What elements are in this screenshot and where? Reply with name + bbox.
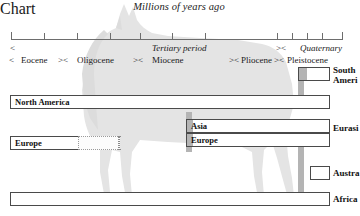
timeline-axis xyxy=(0,30,358,44)
epoch-label-pliocene: Pliocene xyxy=(241,55,272,66)
axis-tick xyxy=(342,32,343,40)
axis-tick xyxy=(205,33,206,40)
range-bar-australia[interactable] xyxy=(310,166,330,180)
axis-tick xyxy=(140,33,141,40)
epoch-label-miocene: Miocene xyxy=(152,55,184,66)
axis-tick xyxy=(172,33,173,40)
range-bar-label: North America xyxy=(15,96,70,110)
range-bar-europe-late[interactable]: Europe xyxy=(186,133,330,147)
range-bar-europe-early[interactable]: Europe xyxy=(10,136,120,150)
continent-label-line: Austra xyxy=(333,168,360,178)
epoch-bracket: >< xyxy=(133,55,143,66)
axis-tick xyxy=(11,32,12,40)
continent-label-africa: Africa xyxy=(333,194,358,204)
epoch-label-oligocene: Oligocene xyxy=(77,55,114,66)
range-bar-label: Europe xyxy=(15,137,42,151)
epoch-label-pleistocene: Pleistocene xyxy=(287,55,328,66)
range-bar-label: Europe xyxy=(191,134,218,148)
range-chart: North America Asia Europe Europe South A… xyxy=(0,62,358,216)
range-bar-africa[interactable] xyxy=(10,192,330,206)
continent-label-australia: Austra xyxy=(333,168,360,178)
axis-tick xyxy=(277,33,278,40)
period-labels: < Tertiary period >< Quaternary < Eocene… xyxy=(0,43,358,67)
axis-tick xyxy=(322,33,323,40)
epoch-label-eocene: Eocene xyxy=(21,55,47,66)
period-row-epochs: < Eocene >< Oligocene >< Miocene >< Plio… xyxy=(0,55,358,66)
range-bar-south-america[interactable] xyxy=(298,67,330,81)
range-bar-north-america[interactable]: North America xyxy=(10,95,330,109)
continent-label-south-america: South Ameri xyxy=(333,65,358,85)
period-row-major: < Tertiary period >< Quaternary xyxy=(0,43,358,54)
continent-label-line: Ameri xyxy=(333,75,358,85)
axis-tick xyxy=(44,33,45,40)
epoch-bracket: >< xyxy=(58,55,68,66)
period-bracket: >< xyxy=(276,43,286,54)
epoch-bracket: >< xyxy=(229,55,239,66)
continent-label-line: Africa xyxy=(333,194,358,204)
range-bar-label: Asia xyxy=(191,120,207,134)
range-bar-dotted-extent xyxy=(78,136,120,150)
axis-tick xyxy=(307,33,308,40)
period-label-tertiary: Tertiary period xyxy=(152,43,206,54)
continent-label-eurasia: Eurasi xyxy=(333,123,359,133)
chart-title: Millions of years ago xyxy=(0,1,358,12)
epoch-bracket: >< xyxy=(274,55,284,66)
epoch-bracket: < xyxy=(9,55,14,66)
range-bar-asia[interactable]: Asia xyxy=(186,119,330,133)
axis-tick xyxy=(292,33,293,40)
continent-label-line: Eurasi xyxy=(333,123,359,133)
period-label-quaternary: Quaternary xyxy=(300,43,342,54)
axis-tick xyxy=(77,33,78,40)
period-bracket: < xyxy=(10,43,15,54)
axis-tick xyxy=(110,33,111,40)
range-bar-fill xyxy=(299,68,307,80)
